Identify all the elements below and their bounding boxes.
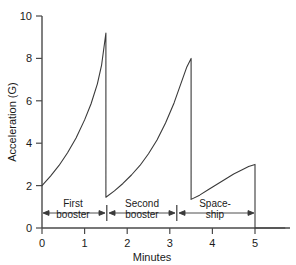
x-tick-label-3: 3 bbox=[167, 237, 173, 249]
acceleration-chart: 0 2 4 6 8 10 0 1 2 3 4 5 Minutes Acceler… bbox=[0, 0, 296, 265]
first-booster-arrow-right-icon bbox=[99, 211, 105, 216]
chart-canvas: 0 2 4 6 8 10 0 1 2 3 4 5 Minutes Acceler… bbox=[0, 0, 296, 265]
x-tick-label-2: 2 bbox=[124, 237, 130, 249]
second-booster-label-line1: Second bbox=[125, 198, 159, 209]
second-booster-label-line2: booster bbox=[125, 209, 159, 220]
y-tick-label-2: 2 bbox=[26, 180, 32, 192]
x-tick-labels: 0 1 2 3 4 5 bbox=[39, 237, 258, 249]
spaceship-arrow-right-icon bbox=[248, 211, 254, 216]
y-tick-label-10: 10 bbox=[20, 10, 32, 22]
annotation-spaceship: Space- ship bbox=[179, 198, 254, 220]
y-tick-label-4: 4 bbox=[26, 137, 32, 149]
first-booster-arrow-left-icon bbox=[43, 211, 49, 216]
y-tick-label-6: 6 bbox=[26, 95, 32, 107]
y-axis-title: Acceleration (G) bbox=[6, 82, 18, 161]
y-tick-label-0: 0 bbox=[26, 222, 32, 234]
x-tick-marks bbox=[42, 228, 255, 234]
annotation-first-booster: First booster bbox=[43, 198, 105, 220]
y-tick-marks bbox=[36, 16, 42, 228]
first-booster-label-line2: booster bbox=[56, 209, 90, 220]
first-booster-label-line1: First bbox=[63, 198, 83, 209]
spaceship-label-line2: ship bbox=[206, 209, 225, 220]
spaceship-label-line1: Space- bbox=[199, 198, 231, 209]
x-tick-label-1: 1 bbox=[82, 237, 88, 249]
spaceship-arrow-left-icon bbox=[179, 211, 185, 216]
x-tick-label-0: 0 bbox=[39, 237, 45, 249]
y-tick-label-8: 8 bbox=[26, 52, 32, 64]
x-axis-title: Minutes bbox=[133, 251, 172, 263]
annotation-second-booster: Second booster bbox=[109, 198, 175, 220]
second-booster-arrow-right-icon bbox=[169, 211, 175, 216]
second-booster-arrow-left-icon bbox=[109, 211, 115, 216]
y-tick-labels: 0 2 4 6 8 10 bbox=[20, 10, 32, 234]
x-tick-label-4: 4 bbox=[209, 237, 215, 249]
x-tick-label-5: 5 bbox=[252, 237, 258, 249]
